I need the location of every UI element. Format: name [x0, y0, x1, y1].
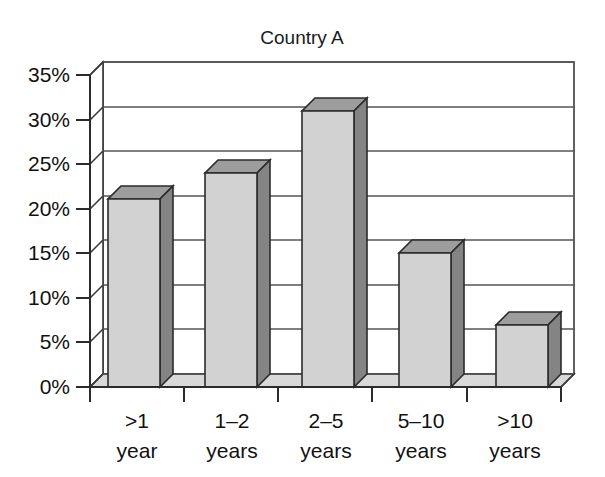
ytick-label-0: 0%: [40, 375, 70, 398]
y-axis-ticks: [76, 75, 90, 387]
bar-front-face-3: [399, 253, 451, 387]
x-axis-ticks: [90, 387, 561, 402]
ytick-label-20: 20%: [28, 197, 70, 220]
left-side-wall: [90, 62, 103, 387]
ytick-label-25: 25%: [28, 152, 70, 175]
ytick-label-5: 5%: [40, 330, 70, 353]
ytick-label-10: 10%: [28, 286, 70, 309]
xtick-label-1-line1: 1–2: [214, 409, 249, 432]
xtick-label-4-line2: years: [489, 439, 540, 462]
xtick-label-2-line1: 2–5: [308, 409, 343, 432]
xtick-label-2-line2: years: [300, 439, 351, 462]
chart-container: Country A: [0, 0, 605, 477]
xtick-label-3-line2: years: [395, 439, 446, 462]
ytick-label-15: 15%: [28, 241, 70, 264]
bar-front-face-0: [108, 199, 160, 387]
x-axis-labels: >1 year 1–2 years 2–5 years 5–10 years >…: [117, 409, 541, 462]
bar-front-face-4: [496, 325, 548, 387]
bar-group-3[interactable]: [399, 240, 464, 387]
y-axis-labels: 0% 5% 10% 15% 20% 25% 30% 35%: [28, 63, 70, 398]
ytick-label-30: 30%: [28, 108, 70, 131]
bar-group-1[interactable]: [205, 160, 270, 387]
bar-group-4[interactable]: [496, 312, 561, 387]
ytick-label-35: 35%: [28, 63, 70, 86]
xtick-label-3-line1: 5–10: [398, 409, 445, 432]
bar-side-face-4: [548, 312, 561, 387]
bar-side-face-1: [257, 160, 270, 387]
chart-title: Country A: [260, 27, 344, 48]
bar-front-face-2: [302, 111, 354, 387]
xtick-label-0-line2: year: [117, 439, 158, 462]
bar-side-face-3: [451, 240, 464, 387]
xtick-label-1-line2: years: [206, 439, 257, 462]
xtick-label-0-line1: >1: [125, 409, 149, 432]
bar-side-face-2: [354, 98, 367, 387]
xtick-label-4-line1: >10: [497, 409, 533, 432]
bar-side-face-0: [160, 186, 173, 387]
bar-chart-svg: Country A: [0, 0, 605, 477]
bar-group-0[interactable]: [108, 186, 173, 387]
bar-front-face-1: [205, 173, 257, 387]
bar-group-2[interactable]: [302, 98, 367, 387]
